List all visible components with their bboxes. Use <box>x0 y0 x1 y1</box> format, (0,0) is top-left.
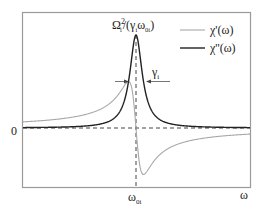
gamma-label: γi <box>151 65 159 81</box>
width-arrow-right-head <box>146 80 151 84</box>
y-zero-label: 0 <box>11 124 17 138</box>
legend-label-chi-double-prime: χ''(ω) <box>209 41 236 55</box>
lorentzian-diagram: Ω2i/(γiω0i) γi χ'(ω) χ''(ω) 0 ω0i ω <box>0 0 265 217</box>
peak-label: Ω2i/(γiω0i) <box>112 17 154 33</box>
x-center-label: ω0i <box>128 190 141 206</box>
x-axis-label: ω <box>240 188 248 202</box>
legend-label-chi-prime: χ'(ω) <box>209 23 233 37</box>
